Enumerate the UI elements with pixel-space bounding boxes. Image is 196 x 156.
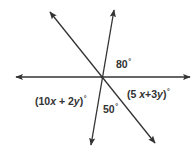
- angle-label-right-expression: (5 x+3y)°: [127, 88, 170, 100]
- angle-value: 80: [116, 58, 128, 70]
- angle-label-left-expression: (10x + 2y)°: [35, 95, 87, 107]
- expr-part: + 2: [56, 95, 74, 107]
- degree-symbol: °: [167, 88, 170, 95]
- angle-label-50: 50°: [103, 103, 118, 115]
- expr-part: +3: [145, 88, 157, 100]
- expr-part: (5: [127, 88, 139, 100]
- angle-label-80: 80°: [116, 58, 131, 70]
- degree-symbol: °: [115, 103, 118, 110]
- intersecting-lines-diagram: [0, 0, 196, 156]
- degree-symbol: °: [84, 95, 87, 102]
- angle-value: 50: [103, 103, 115, 115]
- expr-part: ): [80, 95, 84, 107]
- expr-part: (10: [35, 95, 50, 107]
- expr-part: ): [163, 88, 167, 100]
- degree-symbol: °: [128, 58, 131, 65]
- intersection-point: [101, 76, 104, 79]
